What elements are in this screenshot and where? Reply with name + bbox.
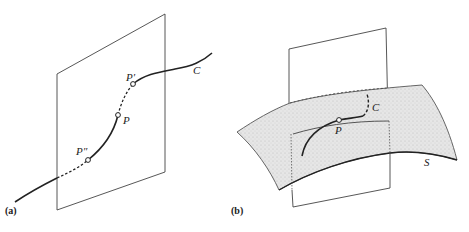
label-p-double-prime: P″ [75,145,88,157]
curve-c-dashed-upper [118,84,133,115]
label-p: P [122,114,130,126]
point-p-b [337,118,342,123]
curve-c-solid-middle [88,115,118,160]
figure-b: P C S (b) [231,28,457,217]
figure-a: P′ P P″ C (a) [5,14,212,217]
point-p-double-prime [86,158,91,163]
label-p-prime: P′ [125,71,136,83]
caption-b: (b) [231,205,243,217]
surface-s [237,85,457,190]
curve-c-dashed-lower [57,160,88,178]
label-curve-c-b: C [372,101,380,113]
curve-c-left-solid [15,178,57,202]
caption-a: (a) [5,205,17,217]
figure: P′ P P″ C (a) P C S (b) [0,0,469,232]
diagram-canvas: P′ P P″ C (a) P C S (b) [0,0,469,232]
point-p [116,113,121,118]
plane-a [57,14,165,210]
label-curve-c-a: C [193,64,201,76]
label-surface-s: S [424,156,430,168]
label-p-b: P [334,124,342,136]
